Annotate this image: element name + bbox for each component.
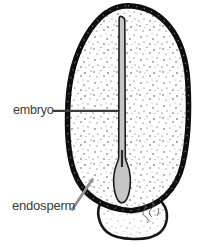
seed-diagram: embryo endosperm xyxy=(0,0,198,247)
label-endosperm: endosperm xyxy=(12,199,75,212)
label-embryo: embryo xyxy=(13,104,53,117)
